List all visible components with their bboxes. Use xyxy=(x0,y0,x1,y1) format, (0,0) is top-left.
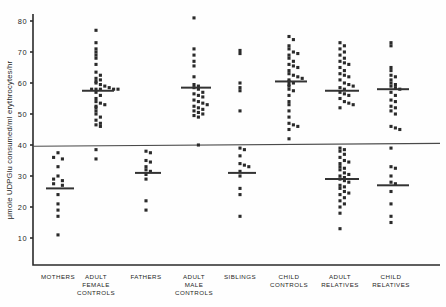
data-point xyxy=(287,116,290,119)
data-point xyxy=(287,69,290,72)
data-point xyxy=(287,103,290,106)
data-point xyxy=(343,190,346,193)
data-point xyxy=(343,148,346,151)
data-point xyxy=(338,66,341,69)
data-point xyxy=(192,75,195,78)
data-point xyxy=(144,165,147,168)
category-label: CHILD xyxy=(279,273,300,280)
data-point xyxy=(56,233,59,236)
data-point xyxy=(338,174,341,177)
data-point xyxy=(192,99,195,102)
data-point xyxy=(343,171,346,174)
category-label: SIBLINGS xyxy=(224,273,256,280)
data-point xyxy=(296,66,299,69)
data-point xyxy=(94,63,97,66)
data-point xyxy=(99,83,102,86)
data-point xyxy=(94,157,97,160)
data-point xyxy=(338,41,341,44)
data-point xyxy=(398,128,401,131)
data-point xyxy=(347,75,350,78)
data-point xyxy=(352,85,355,88)
data-point xyxy=(61,179,64,182)
data-point xyxy=(192,92,195,95)
data-point xyxy=(197,100,200,103)
data-point xyxy=(94,119,97,122)
data-point xyxy=(287,100,290,103)
data-point xyxy=(343,100,346,103)
category-label: ADULT xyxy=(85,273,107,280)
data-point xyxy=(394,112,397,115)
data-point xyxy=(94,57,97,60)
data-point xyxy=(389,147,392,150)
data-point xyxy=(243,148,246,151)
category-label: FATHERS xyxy=(130,273,161,280)
category-label: CONTROLS xyxy=(175,289,213,296)
data-point xyxy=(192,114,195,117)
data-point xyxy=(343,153,346,156)
data-point xyxy=(238,193,241,196)
data-point xyxy=(238,162,241,165)
data-point xyxy=(94,109,97,112)
data-point xyxy=(287,44,290,47)
data-point xyxy=(343,69,346,72)
y-tick-label: 30 xyxy=(18,172,27,181)
data-point xyxy=(238,86,241,89)
mean-lines-layer xyxy=(46,81,409,188)
data-point xyxy=(94,47,97,50)
category-labels-layer: MOTHERSADULTFEMALECONTROLSFATHERSADULTMA… xyxy=(41,273,410,296)
data-point xyxy=(343,57,346,60)
data-point xyxy=(192,16,195,19)
data-point xyxy=(338,72,341,75)
data-point xyxy=(338,165,341,168)
data-point xyxy=(247,165,250,168)
data-point xyxy=(94,123,97,126)
data-point xyxy=(238,154,241,157)
data-point xyxy=(389,181,392,184)
data-point xyxy=(343,61,346,64)
data-point xyxy=(389,99,392,102)
data-point xyxy=(389,85,392,88)
data-point xyxy=(238,147,241,150)
category-label: CHILD xyxy=(381,273,402,280)
y-axis-title-layer: μmole UDPGlu consumed/ml erythrocytes/hr xyxy=(5,61,14,220)
data-point xyxy=(347,63,350,66)
data-point xyxy=(394,75,397,78)
y-tick-label: 70 xyxy=(18,48,27,57)
data-point xyxy=(343,44,346,47)
data-point xyxy=(192,109,195,112)
data-point xyxy=(338,54,341,57)
data-point xyxy=(238,52,241,55)
data-point xyxy=(343,196,346,199)
data-point xyxy=(287,122,290,125)
data-point xyxy=(238,174,241,177)
data-point xyxy=(99,74,102,77)
data-point xyxy=(192,64,195,67)
data-point xyxy=(389,74,392,77)
data-point xyxy=(296,52,299,55)
data-point xyxy=(301,77,304,80)
data-point xyxy=(103,103,106,106)
data-point xyxy=(201,95,204,98)
data-point xyxy=(201,112,204,115)
data-point xyxy=(338,97,341,100)
data-point xyxy=(343,185,346,188)
data-point xyxy=(389,165,392,168)
data-point xyxy=(197,143,200,146)
data-point xyxy=(94,71,97,74)
data-point xyxy=(192,105,195,108)
data-point xyxy=(94,41,97,44)
data-point xyxy=(192,47,195,50)
data-point xyxy=(197,111,200,114)
data-point xyxy=(238,81,241,84)
data-point xyxy=(343,92,346,95)
data-point xyxy=(56,165,59,168)
data-point xyxy=(94,50,97,53)
category-label: ADULT xyxy=(183,273,205,280)
y-tick-label: 40 xyxy=(18,141,27,150)
data-point xyxy=(347,83,350,86)
data-point xyxy=(343,81,346,84)
data-point xyxy=(287,85,290,88)
data-point xyxy=(94,97,97,100)
data-point xyxy=(338,205,341,208)
y-tick-label: 50 xyxy=(18,110,27,119)
